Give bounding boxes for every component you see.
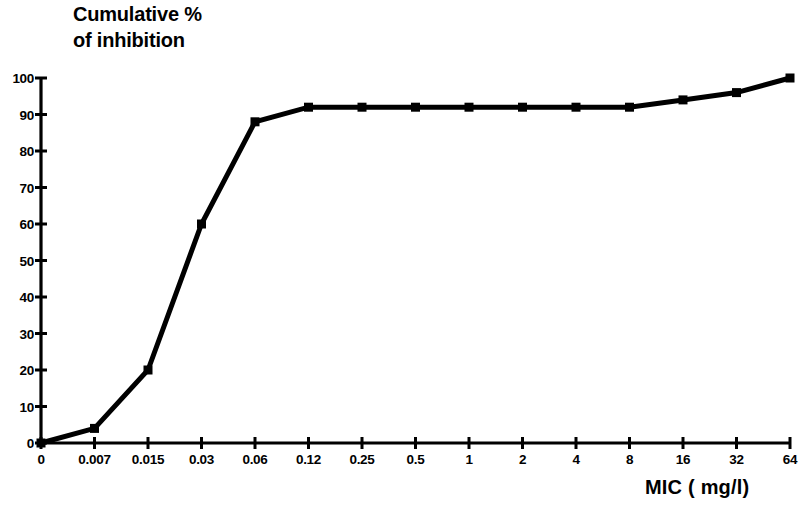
x-axis-tick-label: 32 <box>729 452 743 467</box>
x-axis-tick-label: 0.03 <box>189 452 214 467</box>
data-point-marker <box>411 103 420 112</box>
x-axis-tick-label: 0.015 <box>132 452 164 467</box>
data-point-marker <box>304 103 313 112</box>
data-point-marker <box>358 103 367 112</box>
y-axis-tick-label: 80 <box>0 144 34 159</box>
x-axis-tick-label: 0 <box>37 452 44 467</box>
chart-figure: Cumulative % of inhibition 0102030405060… <box>0 0 802 510</box>
x-axis-tick-label: 16 <box>676 452 690 467</box>
data-point-marker <box>572 103 581 112</box>
x-axis-tick-label: 64 <box>783 452 797 467</box>
data-point-marker <box>197 220 206 229</box>
x-axis-tick-label: 4 <box>572 452 579 467</box>
data-point-marker <box>518 103 527 112</box>
data-point-marker <box>37 439 46 448</box>
x-axis-tick-label: 0.06 <box>242 452 267 467</box>
y-axis-tick-label: 0 <box>0 436 34 451</box>
x-axis-tick-label: 0.5 <box>407 452 425 467</box>
chart-plot-area <box>0 0 802 510</box>
x-axis-tick-label: 8 <box>626 452 633 467</box>
data-point-marker <box>625 103 634 112</box>
x-axis-tick-label: 2 <box>519 452 526 467</box>
x-axis-tick-label: 0.12 <box>296 452 321 467</box>
x-axis-tick-label: 1 <box>465 452 472 467</box>
data-series-markers <box>37 74 795 448</box>
y-axis-tick-label: 70 <box>0 180 34 195</box>
data-point-marker <box>732 88 741 97</box>
x-axis-title: MIC ( mg/l) <box>645 476 749 499</box>
data-point-marker <box>786 74 795 83</box>
y-axis-tick-label: 90 <box>0 107 34 122</box>
x-axis-tick-label: 0.007 <box>78 452 110 467</box>
data-point-marker <box>90 424 99 433</box>
y-axis-tick-label: 60 <box>0 217 34 232</box>
y-axis-tick-label: 100 <box>0 71 34 86</box>
y-axis-tick-label: 40 <box>0 290 34 305</box>
y-axis-tick-label: 50 <box>0 253 34 268</box>
data-series-line <box>41 78 790 443</box>
data-point-marker <box>679 95 688 104</box>
data-point-marker <box>144 366 153 375</box>
y-axis-tick-label: 10 <box>0 399 34 414</box>
y-axis-tick-label: 30 <box>0 326 34 341</box>
y-axis-tick-label: 20 <box>0 363 34 378</box>
data-point-marker <box>251 117 260 126</box>
data-point-marker <box>465 103 474 112</box>
x-axis-tick-label: 0.25 <box>349 452 374 467</box>
